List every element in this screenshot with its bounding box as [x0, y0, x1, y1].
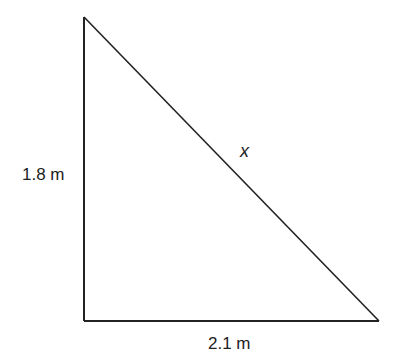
- hypotenuse-label: x: [239, 141, 250, 161]
- hypotenuse: [84, 17, 379, 321]
- right-triangle-diagram: 1.8 m 2.1 m x: [0, 0, 402, 364]
- horizontal-side-label: 2.1 m: [208, 334, 251, 353]
- vertical-side-label: 1.8 m: [22, 165, 65, 184]
